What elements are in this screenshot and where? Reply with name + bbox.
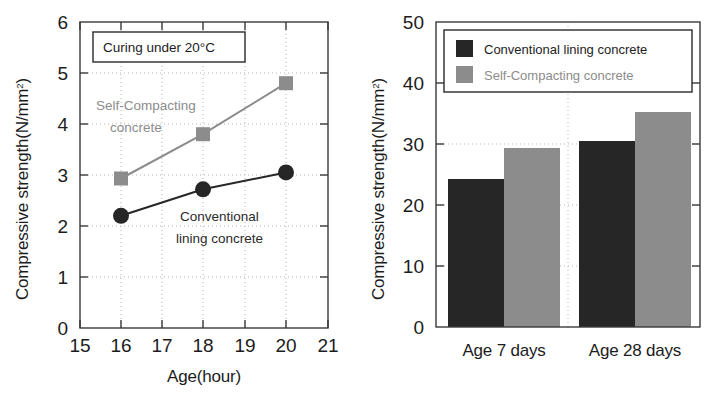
- annotation-self-compacting-line2: concrete: [110, 120, 162, 135]
- bar-chart-svg: Compressive strength(N/mm2) 50 40 30 20 …: [358, 0, 716, 394]
- curing-condition-text: Curing under 20°C: [103, 40, 215, 55]
- legend-label-conventional: Conventional lining concrete: [484, 42, 647, 57]
- line-y-tick-5: 5: [57, 63, 68, 84]
- line-y-tick-6: 6: [57, 12, 68, 33]
- line-chart-panel: Compressive strength(N/mm2) 6 5 4 3 2 1 …: [0, 0, 358, 394]
- legend-label-selfcompacting: Self-Compacting concrete: [484, 68, 634, 83]
- line-chart-x-axis-title: Age(hour): [167, 367, 241, 386]
- bar-conventional-age28: [579, 141, 635, 327]
- marker-sc-18h: [196, 127, 210, 141]
- bar-y-tick-0: 0: [413, 317, 424, 338]
- marker-sc-20h: [279, 76, 293, 90]
- bar-chart-legend: Conventional lining concrete Self-Compac…: [444, 30, 692, 92]
- marker-cv-16h: [113, 208, 129, 224]
- bar-y-tick-30: 30: [403, 134, 424, 155]
- figure-container: Compressive strength(N/mm2) 6 5 4 3 2 1 …: [0, 0, 716, 394]
- bar-conventional-age7: [448, 179, 504, 327]
- line-x-tick-19: 19: [234, 335, 255, 356]
- bar-y-tick-50: 50: [403, 12, 424, 33]
- marker-sc-16h: [114, 172, 128, 186]
- line-y-tick-1: 1: [57, 267, 68, 288]
- line-x-tick-15: 15: [69, 335, 90, 356]
- annotation-conventional-line1: Conventional: [180, 209, 259, 224]
- annotation-self-compacting-line1: Self-Compacting: [96, 98, 196, 113]
- line-x-tick-20: 20: [275, 335, 296, 356]
- curing-condition-box: Curing under 20°C: [93, 32, 245, 62]
- bar-y-tick-10: 10: [403, 256, 424, 277]
- bar-category-label-age28: Age 28 days: [589, 341, 681, 360]
- bar-selfcompacting-age28: [635, 112, 691, 327]
- marker-cv-20h: [278, 164, 294, 180]
- line-y-tick-2: 2: [57, 216, 68, 237]
- line-y-tick-4: 4: [57, 114, 68, 135]
- line-chart-svg: Compressive strength(N/mm2) 6 5 4 3 2 1 …: [0, 0, 358, 394]
- bar-selfcompacting-age7: [504, 148, 560, 327]
- bar-chart-panel: Compressive strength(N/mm2) 50 40 30 20 …: [358, 0, 716, 394]
- line-y-tick-3: 3: [57, 165, 68, 186]
- bar-chart-y-axis-title: Compressive strength(N/mm2): [369, 78, 388, 300]
- marker-cv-18h: [195, 181, 211, 197]
- line-chart-y-axis-title: Compressive strength(N/mm2): [13, 78, 32, 300]
- line-y-tick-0: 0: [57, 318, 68, 339]
- line-x-tick-16: 16: [110, 335, 131, 356]
- legend-swatch-conventional: [456, 40, 473, 57]
- bar-category-label-age7: Age 7 days: [462, 341, 545, 360]
- annotation-conventional-line2: lining concrete: [176, 231, 263, 246]
- bar-y-tick-40: 40: [403, 73, 424, 94]
- line-x-tick-18: 18: [192, 335, 213, 356]
- line-x-tick-21: 21: [317, 335, 338, 356]
- legend-swatch-selfcompacting: [456, 66, 473, 83]
- bar-y-tick-20: 20: [403, 195, 424, 216]
- line-x-tick-17: 17: [151, 335, 172, 356]
